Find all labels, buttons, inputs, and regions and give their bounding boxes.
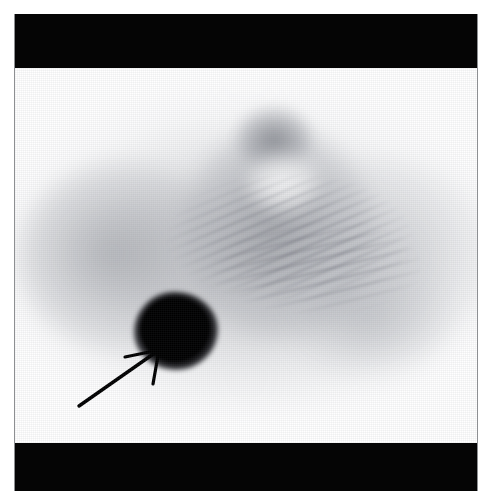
lesion-pointer-arrow <box>75 344 175 410</box>
scan-frame <box>14 14 478 491</box>
top-letterbox-band <box>15 14 477 68</box>
bottom-letterbox-band <box>15 443 477 491</box>
diagonal-reconstruction-streak-artifact-secondary <box>211 218 421 314</box>
tomographic-slice-canvas <box>15 68 477 443</box>
scan-figure <box>0 0 504 491</box>
